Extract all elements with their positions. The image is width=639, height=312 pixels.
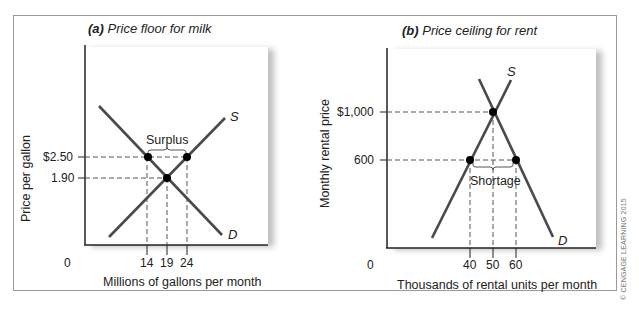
panel-b-x-tick-60: 60 [509, 258, 522, 272]
panel-a-surplus-brace [148, 147, 186, 155]
panel-b-x-tick-50: 50 [486, 258, 499, 272]
panel-a-supply-label: S [230, 109, 239, 124]
panel-b-origin-label: 0 [367, 258, 374, 272]
panel-b-y-tick-high: $1,000 [337, 105, 374, 119]
panel-a-surplus-label: Surplus [146, 133, 188, 147]
panel-a-y-tick-low: 1.90 [51, 171, 74, 185]
panel-b-graphics [380, 48, 596, 258]
panel-b-y-axis-label: Monthly rental price [318, 99, 332, 208]
panel-a-x-tick-24: 24 [180, 256, 193, 270]
panel-b-y-tick-low: 600 [354, 153, 374, 167]
panel-b-supply-at-ceiling-point [466, 156, 474, 164]
panel-b-x-axis-label: Thousands of rental units per month [397, 278, 597, 292]
panel-b-demand-at-ceiling-point [512, 156, 520, 164]
panel-a-equilibrium-point [163, 174, 171, 182]
panel-b-supply-label: S [507, 64, 516, 79]
panel-a-x-tick-14: 14 [140, 256, 153, 270]
copyright-notice: © CENGAGE LEARNING 2015 [620, 198, 627, 300]
panel-b-shortage-label: Shortage [470, 174, 521, 188]
panel-a-demand-curve [99, 106, 222, 235]
panel-a-x-tick-19: 19 [160, 256, 173, 270]
panel-b-demand-label: D [558, 233, 567, 248]
panel-a-supply-at-floor-point [183, 153, 191, 161]
panel-a-graphics [78, 45, 268, 255]
panel-a-demand-label: D [228, 227, 237, 242]
panel-a-origin-label: 0 [64, 256, 71, 270]
panel-a-y-axis-label: Price per gallon [19, 135, 33, 222]
panel-a-x-axis-label: Millions of gallons per month [103, 275, 261, 289]
panel-a-y-tick-high: $2.50 [43, 150, 73, 164]
panel-b-x-tick-40: 40 [463, 258, 476, 272]
panel-a-demand-at-floor-point [144, 153, 152, 161]
panel-b-equilibrium-point [489, 108, 497, 116]
